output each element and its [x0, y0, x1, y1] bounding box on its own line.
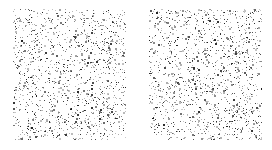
scatter-panel-b	[149, 9, 262, 140]
scatter-panel-a	[13, 9, 126, 140]
panel-b-point-canvas	[149, 9, 262, 140]
panel-a-point-canvas	[13, 9, 126, 140]
figure-root	[0, 0, 272, 150]
